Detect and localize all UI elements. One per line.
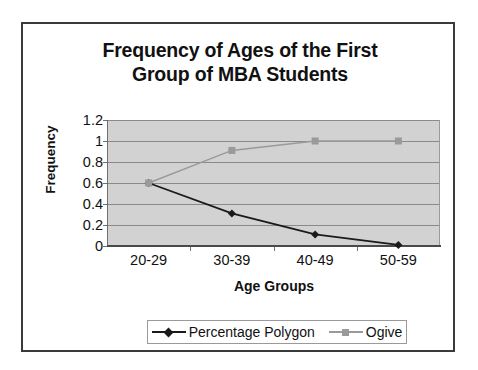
series-line — [149, 141, 399, 183]
x-axis-title: Age Groups — [107, 278, 441, 294]
x-axis-tick-labels: 20-2930-3940-4950-59 — [107, 252, 441, 272]
series-layer — [107, 120, 440, 246]
y-axis-tick-label: 0.4 — [57, 196, 103, 212]
y-axis-tick-label: 0.6 — [57, 175, 103, 191]
data-point-marker — [228, 209, 236, 217]
legend-square-marker-icon — [329, 326, 363, 338]
legend-entry: Ogive — [329, 324, 403, 340]
chart-title: Frequency of Ages of the First Group of … — [23, 38, 457, 86]
series-line — [149, 183, 399, 245]
x-axis-tick — [190, 247, 191, 251]
x-axis-tick-label: 50-59 — [356, 252, 440, 268]
x-axis-tick-label: 20-29 — [107, 252, 191, 268]
x-axis-tick — [357, 247, 358, 251]
y-axis-tick — [103, 120, 107, 121]
data-point-marker — [145, 180, 152, 187]
legend-entry: Percentage Polygon — [152, 324, 315, 340]
y-axis-tick — [103, 162, 107, 163]
data-point-marker — [312, 138, 319, 145]
y-axis-tick-labels: 1.210.80.60.40.20 — [55, 120, 103, 246]
x-axis-tick-label: 30-39 — [190, 252, 274, 268]
y-axis-tick-label: 0.2 — [57, 217, 103, 233]
chart-title-line-2: Group of MBA Students — [23, 62, 457, 86]
chart-legend: Percentage PolygonOgive — [147, 320, 407, 344]
legend-label: Percentage Polygon — [189, 324, 315, 340]
chart-title-line-1: Frequency of Ages of the First — [103, 39, 378, 61]
data-point-marker — [311, 230, 319, 238]
y-axis-tick-label: 1 — [57, 133, 103, 149]
y-axis-tick — [103, 183, 107, 184]
x-axis-tick-label: 40-49 — [273, 252, 357, 268]
y-axis-tick-label: 1.2 — [57, 112, 103, 128]
legend-label: Ogive — [366, 324, 403, 340]
y-axis-tick — [103, 225, 107, 226]
chart-screenshot: Frequency of Ages of the First Group of … — [0, 0, 478, 370]
chart-frame: Frequency of Ages of the First Group of … — [21, 22, 455, 352]
y-axis-tick — [103, 204, 107, 205]
y-axis-tick — [103, 141, 107, 142]
y-axis-tick-label: 0 — [57, 238, 103, 254]
y-axis-tick-label: 0.8 — [57, 154, 103, 170]
legend-diamond-marker-icon — [152, 326, 186, 338]
data-point-marker — [395, 138, 402, 145]
data-point-marker — [394, 241, 402, 249]
y-axis-tick — [103, 246, 107, 247]
x-axis-tick — [274, 247, 275, 251]
data-point-marker — [228, 147, 235, 154]
